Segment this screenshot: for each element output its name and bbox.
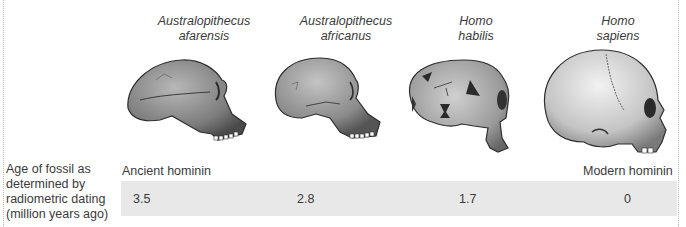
species-label-sapiens: Homo sapiens [548,14,686,44]
species-label-afarensis: Australopithecus afarensis [134,14,274,44]
left-dotted-border [3,0,4,227]
skull-afarensis-icon [120,56,255,151]
species-text: habilis [406,29,546,44]
skull-sapiens-icon [538,44,674,164]
species-label-habilis: Homo habilis [406,14,546,44]
ancient-hominin-label: Ancient hominin [122,164,211,178]
species-text: afarensis [134,29,274,44]
row-label-line: determined by [6,177,116,192]
genus-text: Homo [548,14,686,29]
age-value-sapiens: 0 [624,192,631,206]
row-label-line: Age of fossil as [6,162,116,177]
species-label-africanus: Australopithecus africanus [276,14,416,44]
age-row-label: Age of fossil as determined by radiometr… [6,162,116,222]
genus-text: Australopithecus [134,14,274,29]
modern-hominin-label: Modern hominin [583,164,673,178]
age-band [121,181,677,216]
age-value-habilis: 1.7 [459,192,476,206]
age-value-afarensis: 3.5 [133,192,150,206]
age-value-africanus: 2.8 [297,192,314,206]
genus-text: Homo [406,14,546,29]
row-label-line: radiometric dating [6,192,116,207]
species-text: sapiens [548,29,686,44]
genus-text: Australopithecus [276,14,416,29]
skull-habilis-icon [404,56,524,156]
skull-africanus-icon [268,56,393,151]
row-label-line: (million years ago) [6,207,116,222]
species-text: africanus [276,29,416,44]
